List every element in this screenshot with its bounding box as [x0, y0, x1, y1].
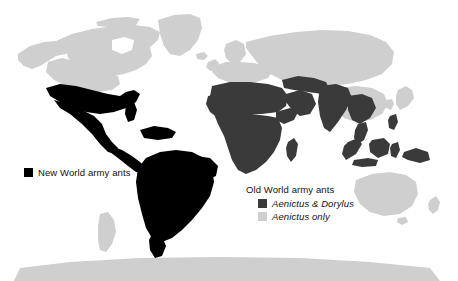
legend-old-world: Old World army ants Aenictus & Dorylus A…: [246, 184, 354, 224]
legend-label-new-world: New World army ants: [38, 167, 131, 178]
square-swatch-icon-aenictus-only: [258, 212, 267, 221]
legend-label-aenictus-dorylus: Aenictus & Dorylus: [272, 198, 354, 209]
square-swatch-icon-new-world: [24, 168, 33, 177]
legend-new-world: New World army ants: [24, 167, 131, 178]
square-swatch-icon-aenictus-dorylus: [258, 199, 267, 208]
legend-row-aenictus-only: Aenictus only: [246, 211, 354, 222]
legend-title-old-world: Old World army ants: [246, 184, 354, 195]
legend-row-aenictus-dorylus: Aenictus & Dorylus: [246, 198, 354, 209]
legend-row-new-world: New World army ants: [24, 167, 131, 178]
world-map-graphic: [0, 0, 458, 281]
legend-label-aenictus-only: Aenictus only: [272, 211, 330, 222]
army-ant-distribution-map: New World army ants Old World army ants …: [0, 0, 458, 281]
